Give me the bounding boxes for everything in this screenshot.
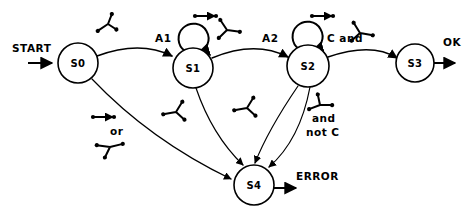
transition-s1-to-s4 xyxy=(196,88,243,165)
state-label-s1: S1 xyxy=(186,63,201,74)
glyph-y-or xyxy=(95,141,127,161)
io-label-ok: OK xyxy=(443,36,461,48)
edge-s0-s1 xyxy=(97,48,172,56)
io-label-start: START xyxy=(12,42,52,54)
state-node-s2[interactable]: S2 xyxy=(287,45,329,87)
transition-s1-to-s2 xyxy=(212,49,288,58)
transition-s2-to-s4-left xyxy=(255,86,298,163)
diagram-canvas: S0 S1 S2 S3 S4 xyxy=(0,0,476,215)
state-label-s0: S0 xyxy=(71,58,86,69)
state-label-s3: S3 xyxy=(408,58,423,69)
state-node-s1[interactable]: S1 xyxy=(173,48,213,88)
glyph-bar-mark-or xyxy=(91,115,116,119)
edge-label-a1: A1 xyxy=(155,32,171,44)
state-node-s3[interactable]: S3 xyxy=(396,44,434,82)
state-label-s2: S2 xyxy=(301,61,316,72)
edge-s2-s4-left xyxy=(255,86,298,163)
glyph-bar-mark-s2 xyxy=(310,14,335,18)
glyph-y-above-s0 xyxy=(91,11,120,38)
edge-s1-s4 xyxy=(196,88,243,165)
state-node-s0[interactable]: S0 xyxy=(58,43,98,83)
edge-label-not-c: not C xyxy=(306,126,340,138)
state-label-s4: S4 xyxy=(247,180,262,191)
glyph-bar-mark-s1 xyxy=(193,14,218,18)
io-label-error: ERROR xyxy=(296,170,339,182)
glyph-y-s1-below xyxy=(159,99,188,125)
glyph-y-s1-right xyxy=(215,18,243,43)
edge-label-a2: A2 xyxy=(262,32,278,44)
state-machine-diagram: S0 S1 S2 S3 S4 xyxy=(0,0,476,215)
state-node-s4[interactable]: S4 xyxy=(234,165,274,205)
edge-label-or: or xyxy=(110,125,124,137)
transition-s2-to-s3 xyxy=(328,50,397,58)
edge-label-and: and xyxy=(312,112,336,124)
edge-s2-s3 xyxy=(328,50,397,58)
transition-s0-to-s1 xyxy=(97,48,172,56)
glyph-y-mid xyxy=(230,95,259,121)
edge-label-c-and: C and xyxy=(327,32,363,44)
edge-s1-s2 xyxy=(212,49,288,58)
